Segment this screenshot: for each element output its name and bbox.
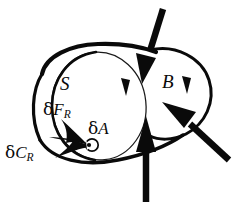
label-area-element: δA [88,120,109,137]
surface-arc-mark-right [182,76,191,94]
area-symbol: A [98,119,108,138]
label-cut-surface: S [60,74,70,93]
stress-diagram-figure: S B δFR δCR δA [0,0,241,203]
delta-glyph-force: δ [43,99,53,119]
surface-arc-mark-left [121,78,130,96]
body-outline-right [150,49,211,140]
force-symbol: F [53,100,63,119]
traction-arrow-bottom [136,116,156,202]
traction-arrow-right [162,102,229,160]
label-resultant-force: δFR [43,101,71,121]
label-resultant-couple: δCR [5,144,34,164]
force-subscript: R [64,108,71,121]
body-outline-left-cap [33,74,42,140]
delta-glyph-couple: δ [5,142,15,162]
couple-symbol: C [15,143,26,162]
label-body: B [162,72,174,91]
application-point-dot [87,143,91,147]
couple-subscript: R [27,151,34,164]
diagram-canvas [0,0,241,203]
delta-glyph-area: δ [88,118,98,138]
